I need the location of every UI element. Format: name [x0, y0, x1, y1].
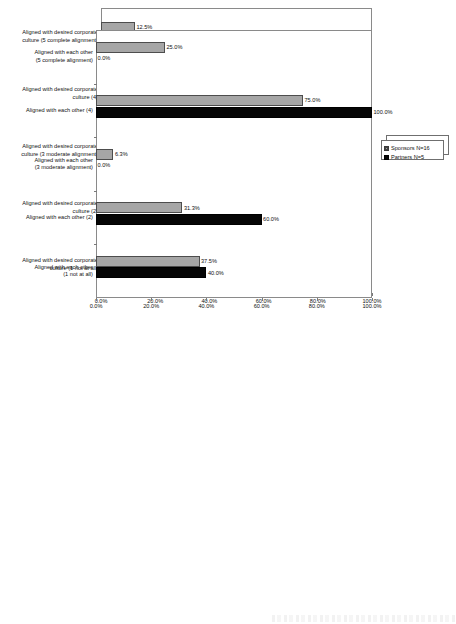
category-label: Aligned with each other (3 moderate alig…	[2, 157, 93, 172]
category-tick	[94, 191, 97, 192]
x-axis-tick	[372, 298, 373, 301]
bar-value-label: 0.0%	[98, 55, 111, 62]
bar-sponsors	[96, 149, 113, 160]
bar-sponsors	[96, 95, 303, 106]
bar-sponsors	[96, 42, 165, 53]
x-axis-tick	[151, 298, 152, 301]
category-label: Aligned with each other (5 complete alig…	[2, 49, 93, 64]
category-tick	[94, 137, 97, 138]
bar-value-label: 6.3%	[115, 151, 128, 158]
x-axis-tick	[262, 298, 263, 301]
bar-partners	[96, 214, 262, 225]
x-axis-tick-label: 0.0%	[81, 303, 111, 310]
bar-value-label: 37.5%	[201, 258, 217, 265]
legend-item-partners: Partners N=5	[384, 153, 440, 161]
legend-item-sponsors: Sponsors N=16	[384, 144, 440, 152]
legend-bottom: Sponsors N=16 Partners N=5	[381, 140, 444, 160]
bar-value-label: 25.0%	[167, 44, 183, 51]
x-axis-tick	[372, 293, 373, 296]
bar-value-label: 0.0%	[98, 162, 111, 169]
category-label: Aligned with each other (1 not at all)	[2, 264, 93, 279]
bar-value-label: 40.0%	[208, 270, 224, 277]
category-label: Aligned with each other (2)	[2, 214, 93, 221]
bar-value-label: 60.0%	[263, 216, 279, 223]
x-axis-tick	[206, 298, 207, 301]
x-axis-tick-label: 100.0%	[357, 303, 387, 310]
bar-value-label: 100.0%	[374, 109, 393, 116]
x-axis-tick-label: 60.0%	[247, 303, 277, 310]
x-axis-tick	[317, 298, 318, 301]
category-tick	[94, 84, 97, 85]
category-axis-bottom: Aligned with each other (5 complete alig…	[2, 30, 93, 298]
category-label: Aligned with each other (4)	[2, 107, 93, 114]
x-axis-tick-label: 40.0%	[191, 303, 221, 310]
bar-sponsors	[96, 202, 182, 213]
bar-partners	[96, 107, 372, 118]
chart-mutual-alignment: Aligned with each other (5 complete alig…	[0, 320, 456, 624]
scan-edge-artifact	[272, 615, 456, 622]
legend-label-partners: Partners N=5	[391, 154, 424, 160]
category-tick	[94, 244, 97, 245]
bar-value-label: 75.0%	[305, 97, 321, 104]
bar-partners	[96, 267, 206, 278]
bar-value-label: 31.3%	[184, 205, 200, 212]
legend-label-sponsors: Sponsors N=16	[391, 145, 430, 151]
sponsors-swatch-icon	[384, 146, 389, 151]
x-axis-tick	[96, 298, 97, 301]
x-axis-tick-label: 80.0%	[302, 303, 332, 310]
bar-sponsors	[96, 256, 200, 267]
partners-swatch-icon	[384, 155, 389, 160]
x-axis-tick-label: 20.0%	[136, 303, 166, 310]
